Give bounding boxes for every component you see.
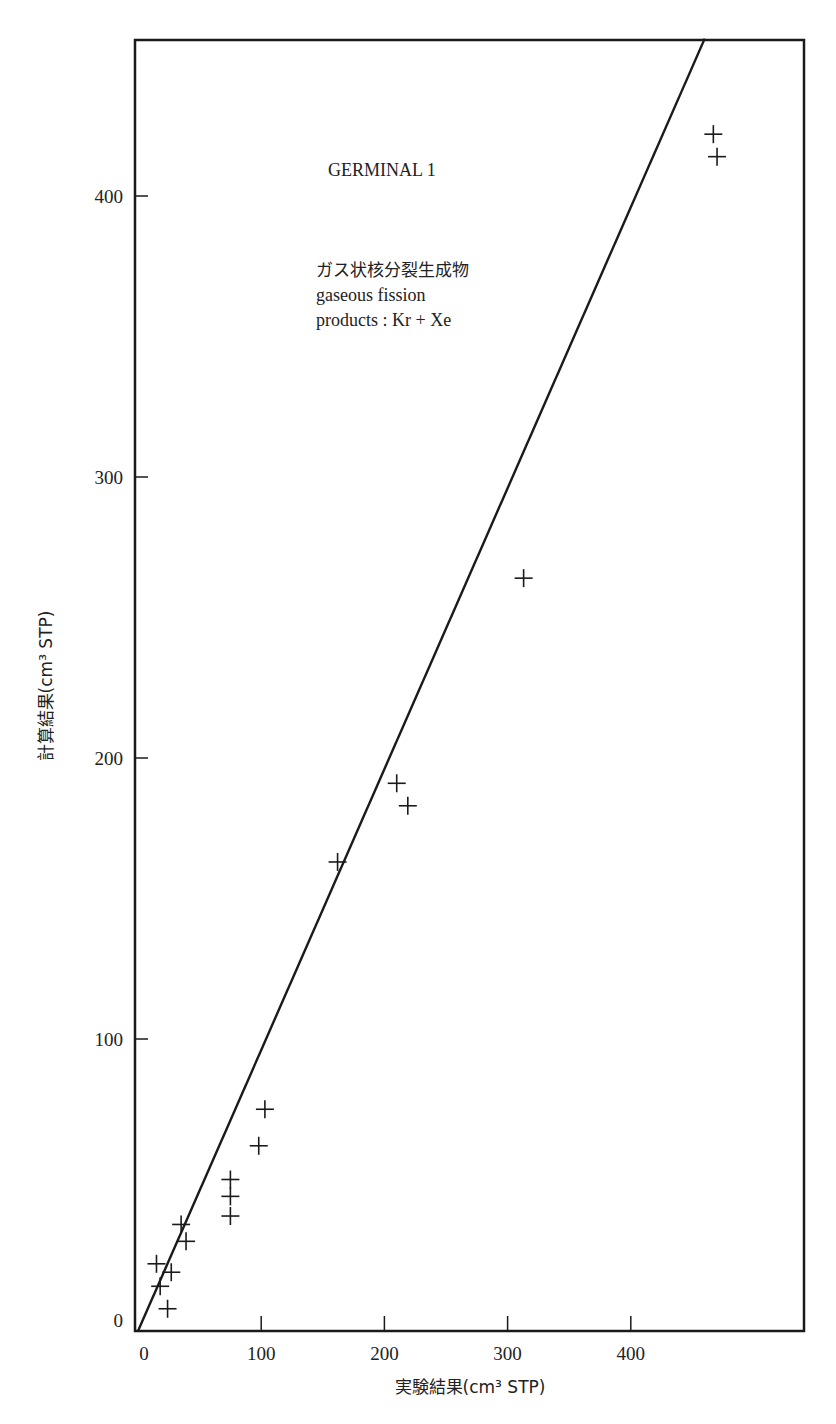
scatter-chart: 0100200300400 0100200300400 GERMINAL 1 ガ… [0,0,836,1424]
data-point-plus-marker [147,1255,165,1273]
data-point-plus-marker [162,1263,180,1281]
data-point-plus-marker [399,797,417,815]
annotation-en-2: products : Kr + Xe [316,310,451,330]
data-point-plus-marker [388,774,406,792]
x-axis-ticks: 0100200300400 [139,1316,645,1364]
y-tick-label: 0 [114,1310,124,1331]
data-point-plus-marker [221,1207,239,1225]
data-point-plus-marker [515,569,533,587]
x-tick-label: 200 [370,1343,399,1364]
data-point-plus-marker [221,1171,239,1189]
x-axis-title: 実験結果(cm³ STP) [395,1377,546,1397]
y-tick-label: 200 [95,748,124,769]
x-tick-label: 100 [247,1343,276,1364]
y-tick-label: 100 [95,1029,124,1050]
data-point-plus-marker [708,148,726,166]
y-axis-title: 計算結果(cm³ STP) [36,611,56,762]
data-point-plus-marker [250,1137,268,1155]
annotation-jp: ガス状核分裂生成物 [316,260,469,280]
data-points [147,125,726,1318]
annotation-en-1: gaseous fission [316,285,426,305]
x-tick-label: 0 [139,1343,149,1364]
x-tick-label: 400 [617,1343,646,1364]
plot-frame [135,40,804,1331]
data-point-plus-marker [329,853,347,871]
data-point-plus-marker [221,1187,239,1205]
reference-line-y-equals-x [138,39,705,1331]
data-point-plus-marker [159,1300,177,1318]
x-tick-label: 300 [493,1343,522,1364]
data-point-plus-marker [256,1100,274,1118]
y-tick-label: 400 [95,186,124,207]
annotation-title: GERMINAL 1 [328,160,436,180]
y-tick-label: 300 [95,467,124,488]
data-point-plus-marker [704,125,722,143]
y-axis-ticks: 0100200300400 [95,186,149,1331]
